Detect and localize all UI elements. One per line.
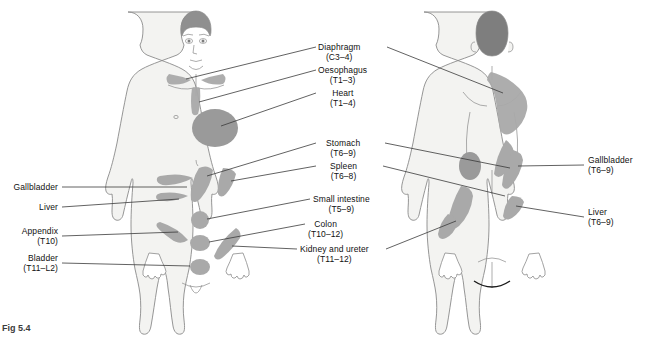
- figure-caption: Fig 5.4: [2, 323, 31, 333]
- label-gallbladder-posterior: Gallbladder (T6–9): [588, 155, 633, 175]
- label-small-intestine-level: (T5–9): [313, 204, 370, 214]
- label-gallbladder-anterior: Gallbladder: [0, 182, 58, 192]
- leader-oesophagus: [199, 70, 316, 102]
- leader-kidney-anterior: [232, 246, 297, 249]
- label-kidney-and-ureter-title: Kidney and ureter: [300, 244, 369, 254]
- label-stomach-title: Stomach: [326, 138, 360, 148]
- label-stomach-level: (T6–9): [326, 148, 360, 158]
- label-appendix: Appendix (T10): [0, 226, 58, 246]
- leader-gallbladder-right: [518, 165, 584, 166]
- label-diaphragm: Diaphragm (C3–4): [318, 42, 360, 62]
- label-gallbladder-anterior-title: Gallbladder: [13, 182, 58, 192]
- leader-colon: [209, 224, 305, 242]
- leader-diaphragm-anterior: [186, 47, 316, 79]
- patch-bladder-suprapubic: [190, 259, 210, 275]
- label-bladder: Bladder (T11–L2): [0, 253, 58, 273]
- label-bladder-title: Bladder: [28, 253, 58, 263]
- patch-heart: [192, 109, 238, 147]
- label-oesophagus-title: Oesophagus: [318, 65, 367, 75]
- label-appendix-level: (T10): [0, 236, 58, 246]
- leader-spleen-anterior: [231, 166, 316, 181]
- label-appendix-title: Appendix: [22, 226, 58, 236]
- label-oesophagus: Oesophagus (T1–3): [318, 65, 367, 85]
- label-spleen: Spleen (T6–8): [330, 161, 357, 181]
- label-diaphragm-title: Diaphragm: [318, 42, 360, 52]
- label-heart-level: (T1–4): [330, 98, 356, 108]
- label-kidney-and-ureter: Kidney and ureter (T11–12): [300, 244, 369, 264]
- label-heart-title: Heart: [332, 88, 353, 98]
- patch-posterior-interscapular: [459, 152, 481, 180]
- label-small-intestine-title: Small intestine: [313, 194, 370, 204]
- label-small-intestine: Small intestine (T5–9): [313, 194, 370, 214]
- patch-small-intestine-umbilical: [191, 211, 209, 229]
- label-stomach: Stomach (T6–9): [326, 138, 360, 158]
- label-heart: Heart (T1–4): [330, 88, 356, 108]
- label-kidney-and-ureter-level: (T11–12): [300, 254, 369, 264]
- leader-heart: [221, 93, 316, 126]
- label-bladder-level: (T11–L2): [0, 263, 58, 273]
- label-colon-level: (T10–12): [308, 229, 343, 239]
- leader-small-intestine: [207, 199, 310, 219]
- label-colon: Colon (T10–12): [308, 219, 343, 239]
- leader-stomach-anterior: [207, 143, 316, 176]
- label-liver-posterior-level: (T6–9): [588, 217, 614, 227]
- leader-liver-right: [516, 206, 584, 217]
- label-gallbladder-posterior-level: (T6–9): [588, 165, 633, 175]
- posterior-figure: [402, 11, 546, 334]
- label-liver-posterior: Liver (T6–9): [588, 207, 614, 227]
- posterior-hair: [476, 11, 508, 56]
- label-liver-posterior-title: Liver: [588, 207, 607, 217]
- patch-colon-lower: [190, 235, 210, 251]
- anterior-face: [183, 34, 209, 61]
- label-gallbladder-posterior-title: Gallbladder: [588, 155, 633, 165]
- anterior-figure: [106, 11, 250, 334]
- label-liver-anterior-title: Liver: [39, 202, 58, 212]
- label-spleen-level: (T6–8): [330, 171, 357, 181]
- label-liver-anterior: Liver: [0, 202, 58, 212]
- label-spleen-title: Spleen: [330, 161, 357, 171]
- patch-right-shoulder-diaphragm: [201, 74, 226, 85]
- label-colon-title: Colon: [314, 219, 337, 229]
- label-diaphragm-level: (C3–4): [318, 52, 360, 62]
- label-oesophagus-level: (T1–3): [318, 75, 367, 85]
